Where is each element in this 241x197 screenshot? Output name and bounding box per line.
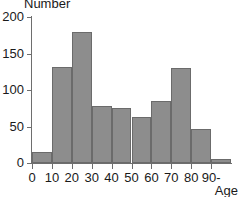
histogram-bar [191,129,211,163]
y-axis-tick: 100 [27,90,32,91]
x-axis-tick-label: 20 [65,170,79,185]
histogram-bar [32,152,52,163]
histogram-bar [171,68,191,163]
x-axis-tick [112,164,113,169]
histogram-bar [132,117,152,163]
y-axis-tick: 50 [27,127,32,128]
histogram-bar [112,108,132,163]
x-axis-tick [32,164,33,169]
x-axis-tick-label: 50 [124,170,138,185]
histogram-bar [151,101,171,163]
x-axis-tick-label: 0 [28,170,35,185]
histogram-bar [211,159,231,163]
y-axis-tick-label: 0 [17,155,24,170]
x-axis-tick-label: 60 [144,170,158,185]
x-axis-tick-label: 40 [104,170,118,185]
plot-area: 050100150200 [32,17,231,163]
x-axis-tick-label: 70 [164,170,178,185]
histogram-chart: Number 050100150200 Age 0102030405060708… [0,0,241,197]
y-axis-tick-label: 50 [10,119,24,134]
y-axis-tick: 200 [27,17,32,18]
x-axis-tick-label: 30 [84,170,98,185]
x-axis-tick [72,164,73,169]
x-axis-tick-label: 10 [45,170,59,185]
x-axis-tick [171,164,172,169]
y-axis-tick: 150 [27,54,32,55]
x-axis-tick [132,164,133,169]
histogram-bar [72,32,92,163]
histogram-bar [92,106,112,163]
histogram-bar [52,67,72,163]
x-axis-tick [52,164,53,169]
y-axis-tick-label: 100 [2,82,24,97]
y-axis-title: Number [24,0,70,11]
x-axis-tick-label: 80 [184,170,198,185]
y-axis-tick-label: 200 [2,9,24,24]
x-axis-tick-label: 90- [202,170,221,185]
x-axis-tick [151,164,152,169]
x-axis-tick [211,164,212,169]
x-axis-tick [191,164,192,169]
y-axis-tick-label: 150 [2,46,24,61]
x-axis-title: Age [215,183,238,197]
x-axis-tick [92,164,93,169]
